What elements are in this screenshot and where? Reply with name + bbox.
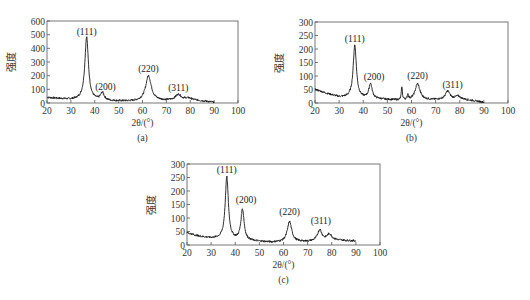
y-tick-label: 500 [31,30,46,40]
y-tick-label: 250 [299,31,314,41]
y-axis-label: 强度 [273,53,285,73]
peak-label: (111) [345,34,365,45]
x-tick-label: 70 [431,106,441,116]
y-tick-label: 50 [304,85,314,95]
x-tick-label: 30 [334,106,344,116]
y-axis-label: 强度 [145,195,157,215]
x-axis-label: 2θ/(°) [400,118,422,129]
plot-frame [187,164,380,245]
xrd-chart-b: 0501001502002503002030405060708090100强度2… [273,18,515,145]
y-tick-label: 200 [171,187,186,197]
x-tick-label: 50 [383,106,393,116]
peak-label: (311) [442,80,462,91]
y-tick-label: 50 [176,227,186,237]
x-tick-label: 100 [373,248,388,258]
peak-label: (311) [311,216,331,227]
x-tick-label: 40 [359,106,369,116]
y-tick-label: 150 [171,200,186,210]
y-tick-label: 150 [299,58,314,68]
x-tick-label: 40 [90,106,100,116]
x-tick-label: 20 [310,106,320,116]
x-tick-label: 30 [66,106,76,116]
peak-label: (200) [95,82,116,93]
y-tick-label: 200 [31,71,46,81]
x-axis-label: 2θ/(°) [272,260,294,271]
peak-label: (111) [217,165,237,176]
panel-caption: (a) [137,133,148,144]
y-tick-label: 400 [31,44,46,54]
x-tick-label: 90 [479,106,489,116]
peak-label: (220) [279,207,300,218]
x-axis-label: 2θ/(°) [131,118,153,129]
x-tick-label: 90 [351,248,361,258]
xrd-figure: 01002003004005006002030405060708090100强度… [0,0,530,300]
xrd-chart-a: 01002003004005006002030405060708090100强度… [5,17,245,145]
x-tick-label: 90 [209,106,219,116]
x-tick-label: 80 [455,106,465,116]
x-tick-label: 100 [231,106,246,116]
peak-label: (220) [407,71,428,82]
y-tick-label: 600 [31,17,46,27]
x-tick-label: 80 [186,106,196,116]
y-tick-label: 250 [171,173,186,183]
x-tick-label: 60 [138,106,148,116]
x-tick-label: 20 [182,248,192,258]
y-tick-label: 200 [299,45,314,55]
peak-label: (200) [364,72,385,83]
x-tick-label: 100 [501,106,516,116]
peak-label: (200) [236,195,257,206]
x-tick-label: 60 [407,106,417,116]
xrd-chart-c: 0501001502002503002030405060708090100强度2… [145,160,387,287]
y-tick-label: 300 [31,58,46,68]
y-tick-label: 100 [299,72,314,82]
x-tick-label: 50 [114,106,124,116]
x-tick-label: 30 [206,248,216,258]
panel-caption: (b) [406,133,417,144]
x-tick-label: 50 [255,248,265,258]
x-tick-label: 80 [327,248,337,258]
panel-caption: (c) [278,275,289,286]
y-tick-label: 300 [171,160,186,170]
x-tick-label: 70 [303,248,313,258]
y-axis-label: 强度 [5,52,17,72]
plot-frame [47,21,238,103]
xrd-pattern-line [315,45,484,103]
y-tick-label: 100 [31,85,46,95]
y-tick-label: 300 [299,18,314,28]
x-tick-label: 60 [279,248,289,258]
x-tick-label: 70 [162,106,172,116]
xrd-pattern-line [47,37,214,103]
y-tick-label: 100 [171,214,186,224]
x-tick-label: 40 [231,248,241,258]
peak-label: (311) [168,83,188,94]
xrd-pattern-line [187,176,356,242]
peak-label: (111) [77,27,97,38]
peak-label: (220) [138,64,159,75]
x-tick-label: 20 [42,106,52,116]
